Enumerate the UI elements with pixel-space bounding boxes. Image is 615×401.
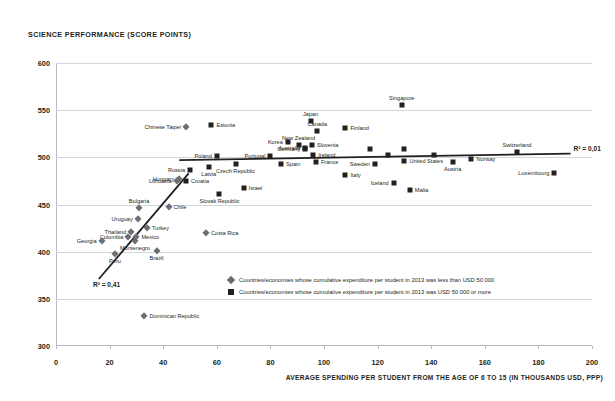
data-point-label: Italy bbox=[350, 172, 360, 178]
chart-title: SCIENCE PERFORMANCE (SCORE POINTS) bbox=[28, 30, 191, 39]
data-point[interactable] bbox=[279, 161, 284, 166]
data-point[interactable] bbox=[514, 149, 519, 154]
data-point[interactable] bbox=[233, 161, 238, 166]
data-point[interactable] bbox=[407, 188, 412, 193]
chart-legend: Countries/economies whose cumulative exp… bbox=[228, 277, 494, 300]
data-point[interactable] bbox=[469, 157, 474, 162]
data-point[interactable] bbox=[391, 180, 396, 185]
data-point-label: Portugal bbox=[245, 153, 266, 159]
y-axis-tick-label: 500 bbox=[6, 153, 50, 162]
data-point-label: Slovenia bbox=[317, 142, 338, 148]
x-axis-tick-label: 120 bbox=[358, 358, 398, 367]
data-point[interactable] bbox=[372, 161, 377, 166]
x-axis-tick-mark bbox=[324, 346, 325, 349]
y-axis-tick-label: 600 bbox=[6, 59, 50, 68]
x-axis-title: AVERAGE SPENDING PER STUDENT FROM THE AG… bbox=[286, 374, 603, 381]
x-axis-tick-mark bbox=[270, 346, 271, 349]
data-point-label: Finland bbox=[350, 125, 368, 131]
diamond-marker-icon bbox=[227, 276, 235, 284]
data-point-label: United States bbox=[409, 158, 443, 164]
x-axis-tick-label: 160 bbox=[465, 358, 505, 367]
legend-item-low-expenditure: Countries/economies whose cumulative exp… bbox=[228, 277, 494, 283]
x-axis-tick-label: 60 bbox=[197, 358, 237, 367]
data-point-label: Uruguay bbox=[112, 216, 133, 222]
data-point[interactable] bbox=[309, 143, 314, 148]
data-point-label: Dominican Republic bbox=[149, 313, 199, 319]
data-point-label: Georgia bbox=[77, 238, 97, 244]
square-marker-icon bbox=[228, 289, 234, 295]
data-point[interactable] bbox=[311, 152, 316, 157]
high-expenditure-trend bbox=[179, 154, 570, 161]
data-point-label: Canada bbox=[307, 121, 327, 127]
data-point[interactable] bbox=[268, 154, 273, 159]
data-point[interactable] bbox=[217, 192, 222, 197]
data-point[interactable] bbox=[552, 171, 557, 176]
x-axis-tick-label: 200 bbox=[572, 358, 612, 367]
y-axis-tick-label: 550 bbox=[6, 106, 50, 115]
data-point-label: Norway bbox=[476, 156, 495, 162]
data-point-label: Slovak Republic bbox=[199, 198, 239, 204]
data-point-label: Costa Rica bbox=[211, 230, 238, 236]
data-point-label: Latvia bbox=[201, 171, 216, 177]
x-axis-tick-label: 40 bbox=[143, 358, 183, 367]
data-point-label: Mexico bbox=[141, 233, 159, 239]
data-point[interactable] bbox=[206, 164, 211, 169]
data-point-label: Montenegro bbox=[120, 245, 150, 251]
data-point[interactable] bbox=[315, 128, 320, 133]
data-point-label: New Zealand bbox=[282, 135, 315, 141]
data-point[interactable] bbox=[386, 153, 391, 158]
x-axis-tick-mark bbox=[592, 346, 593, 349]
data-point-label: Croatia bbox=[191, 178, 209, 184]
legend-item-high-expenditure: Countries/economies whose cumulative exp… bbox=[228, 289, 494, 295]
data-point[interactable] bbox=[367, 146, 372, 151]
data-point-label: Chile bbox=[174, 204, 187, 210]
data-point-label: Luxembourg bbox=[518, 170, 549, 176]
data-point-label: Peru bbox=[109, 258, 121, 264]
x-axis-tick-label: 100 bbox=[304, 358, 344, 367]
y-axis-tick-label: 450 bbox=[6, 200, 50, 209]
data-point-label: Switzerland bbox=[502, 141, 531, 147]
data-point[interactable] bbox=[343, 126, 348, 131]
x-axis-tick-label: 80 bbox=[250, 358, 290, 367]
x-axis-tick-mark bbox=[110, 346, 111, 349]
data-point[interactable] bbox=[343, 173, 348, 178]
data-point[interactable] bbox=[402, 159, 407, 164]
x-axis-tick-mark bbox=[485, 346, 486, 349]
data-point-label: Poland bbox=[194, 153, 211, 159]
data-point-label: Czech Republic bbox=[216, 168, 255, 174]
data-point[interactable] bbox=[399, 102, 404, 107]
data-point-label: Brazil bbox=[150, 255, 164, 261]
data-point[interactable] bbox=[188, 167, 193, 172]
x-axis-tick-mark bbox=[378, 346, 379, 349]
x-axis-tick-label: 180 bbox=[518, 358, 558, 367]
data-point-label: Bulgaria bbox=[129, 198, 150, 204]
data-point-label: France bbox=[321, 159, 338, 165]
data-point-label: Chinese Taipei bbox=[144, 124, 181, 130]
data-point[interactable] bbox=[450, 160, 455, 165]
trendlines-layer bbox=[56, 63, 592, 346]
legend-label-low-expenditure: Countries/economies whose cumulative exp… bbox=[239, 277, 494, 283]
data-point[interactable] bbox=[183, 178, 188, 183]
x-axis-tick-mark bbox=[217, 346, 218, 349]
data-point-label: Singapore bbox=[389, 94, 415, 100]
high-expenditure-trend-r2-label: R² = 0,01 bbox=[574, 145, 601, 152]
data-point[interactable] bbox=[214, 154, 219, 159]
x-axis-tick-label: 20 bbox=[90, 358, 130, 367]
data-point-label: Spain bbox=[286, 161, 300, 167]
data-point[interactable] bbox=[313, 160, 318, 165]
data-point-label: Iceland bbox=[371, 180, 389, 186]
y-axis-tick-label: 300 bbox=[6, 342, 50, 351]
data-point-label: Russia bbox=[168, 166, 185, 172]
data-point[interactable] bbox=[303, 146, 308, 151]
data-point-label: Sweden bbox=[350, 161, 370, 167]
x-axis-tick-mark bbox=[431, 346, 432, 349]
data-point-label: Estonia bbox=[216, 122, 235, 128]
legend-label-high-expenditure: Countries/economies whose cumulative exp… bbox=[239, 289, 491, 295]
data-point[interactable] bbox=[209, 123, 214, 128]
plot-area: Chinese TaipeiCosta RicaChileBulgariaUru… bbox=[56, 63, 592, 346]
data-point-label: Turkey bbox=[152, 225, 169, 231]
data-point-label: Malta bbox=[415, 187, 429, 193]
data-point-label: Austria bbox=[444, 166, 461, 172]
data-point[interactable] bbox=[241, 186, 246, 191]
data-point[interactable] bbox=[402, 146, 407, 151]
